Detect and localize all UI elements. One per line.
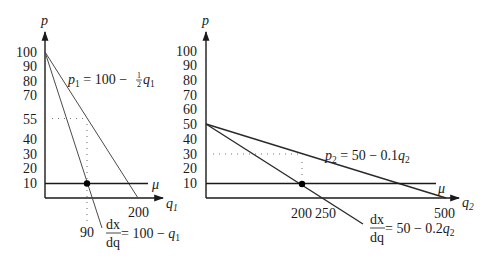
svg-text:p2 = 50 − 0.1q2: p2 = 50 − 0.1q2 [324, 148, 410, 165]
svg-text:dq: dq [106, 235, 120, 250]
left-mr-equation: dx dq = 100 − q1 [106, 217, 180, 250]
right-demand-equation: p2 = 50 − 0.1q2 [324, 148, 410, 165]
svg-text:100: 100 [176, 44, 197, 59]
left-optimum-point [84, 180, 90, 186]
right-marginal-revenue-curve [206, 124, 363, 224]
svg-text:dq: dq [370, 230, 384, 245]
right-x-tick-500: 500 [434, 206, 455, 221]
svg-text:20: 20 [23, 161, 37, 176]
svg-text:= 50 − 0.2q2: = 50 − 0.2q2 [385, 221, 455, 238]
svg-text:30: 30 [23, 147, 37, 162]
svg-text:80: 80 [23, 74, 37, 89]
svg-text:2: 2 [137, 80, 141, 89]
svg-text:dx: dx [370, 212, 384, 227]
left-y-axis-label: p [40, 13, 48, 28]
left-y-tick-labels: 100 90 80 70 55 40 30 20 10 [16, 45, 37, 191]
left-x-tick-90: 90 [80, 225, 94, 240]
svg-text:100: 100 [16, 45, 37, 60]
svg-text:90: 90 [183, 58, 197, 73]
left-x-tick-200: 200 [128, 205, 149, 220]
left-demand-equation: p1 = 100 − 1 2 q1 [67, 71, 155, 89]
svg-text:q1: q1 [143, 72, 155, 89]
right-y-tick-labels: 100 90 80 70 60 50 40 30 20 10 [176, 44, 197, 191]
left-x-axis-label: q1 [166, 196, 178, 213]
svg-text:10: 10 [23, 176, 37, 191]
left-panel: p q1 100 90 80 70 55 40 30 20 10 μ 90 20… [16, 13, 180, 250]
svg-text:1: 1 [137, 71, 141, 80]
svg-text:55: 55 [23, 112, 37, 127]
svg-text:30: 30 [183, 147, 197, 162]
svg-text:40: 40 [23, 132, 37, 147]
right-y-axis-label: p [201, 13, 209, 28]
svg-text:p1 = 100 −: p1 = 100 − [67, 72, 127, 89]
svg-text:80: 80 [183, 73, 197, 88]
right-mu-label: μ [437, 181, 445, 196]
right-panel: p q2 100 90 80 70 60 50 40 30 20 10 μ 20… [176, 13, 474, 245]
svg-text:40: 40 [183, 132, 197, 147]
svg-text:20: 20 [183, 161, 197, 176]
right-x-tick-250: 250 [315, 206, 336, 221]
left-mu-label: μ [151, 177, 159, 192]
price-discrimination-figure: p q1 100 90 80 70 55 40 30 20 10 μ 90 20… [0, 0, 495, 259]
right-x-axis-label: q2 [462, 195, 474, 212]
svg-text:90: 90 [23, 59, 37, 74]
svg-text:70: 70 [183, 88, 197, 103]
right-x-tick-200: 200 [291, 206, 312, 221]
svg-text:dx: dx [106, 217, 120, 232]
svg-text:50: 50 [183, 117, 197, 132]
right-optimum-point [299, 181, 305, 187]
svg-text:60: 60 [183, 102, 197, 117]
svg-text:70: 70 [23, 88, 37, 103]
svg-text:10: 10 [183, 176, 197, 191]
svg-text:= 100 − q1: = 100 − q1 [121, 226, 180, 243]
